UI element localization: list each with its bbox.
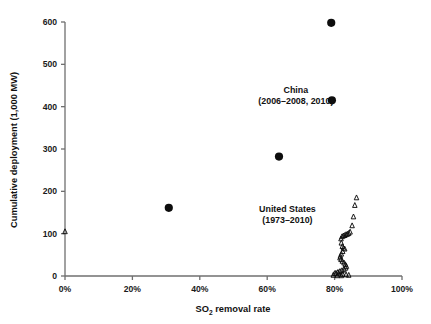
y-tick-label: 400 [43, 102, 58, 112]
united-states-label-line2: (1973–2010) [262, 215, 312, 225]
x-axis-title-pre: SO [196, 304, 209, 314]
y-tick-label: 200 [43, 186, 58, 196]
y-tick-label: 500 [43, 59, 58, 69]
y-axis-title-text: Cumulative deployment (1,000 MW) [9, 72, 19, 228]
x-tick-label: 20% [124, 284, 142, 294]
united-states-label-line1: United States [259, 204, 316, 214]
y-tick-label: 0 [52, 271, 57, 281]
y-tick-label: 600 [43, 17, 58, 27]
y-axis-title: Cumulative deployment (1,000 MW) [9, 72, 19, 228]
united-states-label: United States(1973–2010) [259, 204, 316, 225]
x-tick-label: 40% [191, 284, 209, 294]
data-point-circle [165, 204, 173, 212]
y-tick-label: 300 [43, 144, 58, 154]
china-label-line1: China [284, 85, 309, 95]
x-axis-title: SO2 removal rate [196, 304, 271, 316]
y-tick-label: 100 [43, 229, 58, 239]
x-tick-label: 0% [59, 284, 72, 294]
x-tick-label: 60% [259, 284, 277, 294]
x-axis-title-post: removal rate [213, 304, 271, 314]
x-axis-title-text: SO2 removal rate [196, 304, 271, 316]
china-label-line2: (2006–2008, 2010) [258, 96, 333, 106]
chart-figure: 0100200300400500600 0%20%40%60%80%100% C… [0, 0, 431, 324]
scatter-plot-svg: 0100200300400500600 0%20%40%60%80%100% C… [0, 0, 431, 324]
data-point-circle [327, 19, 335, 27]
x-tick-label: 80% [326, 284, 344, 294]
x-tick-label: 100% [391, 284, 413, 294]
data-point-circle [275, 153, 283, 161]
